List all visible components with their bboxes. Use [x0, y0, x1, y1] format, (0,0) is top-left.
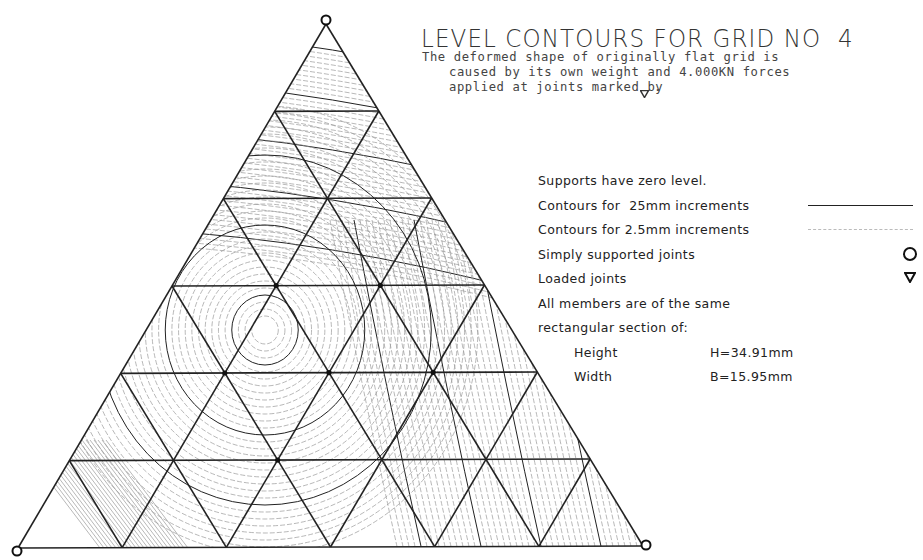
height-value: H=34.91mm: [710, 345, 794, 360]
support-circle-icon: [13, 547, 22, 556]
support-circle-icon: [322, 16, 331, 25]
loaded-joint-dot: [431, 370, 436, 375]
legend-loaded-joints: Loaded joints: [538, 268, 923, 293]
width-label: Width: [574, 369, 612, 384]
description-line-2: caused by its own weight and 4.000KN for…: [449, 65, 790, 79]
legend: Supports have zero level. Contours for 2…: [538, 170, 923, 391]
legend-width: Width B=15.95mm: [538, 366, 923, 391]
loaded-joint-dot: [275, 457, 280, 462]
description-line-1: The deformed shape of originally flat gr…: [422, 50, 779, 64]
loaded-joint-dot: [222, 370, 227, 375]
support-circle-icon: [642, 541, 651, 550]
loaded-joint-dot: [378, 283, 383, 288]
dashed-line-icon: [808, 229, 913, 230]
solid-line-icon: [808, 205, 913, 206]
description-period: .: [654, 80, 662, 94]
legend-section-note-2: rectangular section of:: [538, 317, 923, 342]
loaded-joint-marker-icon: [640, 90, 649, 98]
legend-minor-contours: Contours for 2.5mm increments: [538, 219, 923, 244]
legend-supports-note: Supports have zero level.: [538, 170, 923, 195]
loaded-joint-dot: [326, 370, 331, 375]
legend-major-contours: Contours for 25mm increments: [538, 195, 923, 220]
description-line-3: applied at joints marked by: [449, 80, 663, 94]
circle-icon: [903, 247, 917, 261]
width-value: B=15.95mm: [710, 369, 793, 384]
legend-supported-joints: Simply supported joints: [538, 244, 923, 269]
legend-section-note-1: All members are of the same: [538, 293, 923, 318]
legend-height: Height H=34.91mm: [538, 342, 923, 367]
inverted-triangle-icon: [904, 272, 916, 283]
loaded-joint-dot: [274, 283, 279, 288]
height-label: Height: [574, 345, 618, 360]
diagram-title: LEVEL CONTOURS FOR GRID NO 4: [421, 26, 854, 52]
